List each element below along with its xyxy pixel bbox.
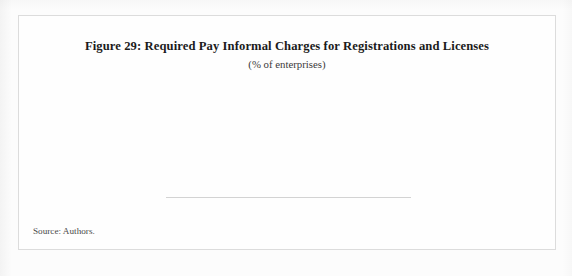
figure-frame: Figure 29: Required Pay Informal Charges… — [18, 15, 556, 250]
figure-page: Figure 29: Required Pay Informal Charges… — [0, 0, 572, 276]
source-note: Source: Authors. — [33, 226, 95, 236]
x-axis-line — [166, 197, 411, 198]
plot-area: 66.5% Informal payment for business regi… — [19, 16, 557, 251]
